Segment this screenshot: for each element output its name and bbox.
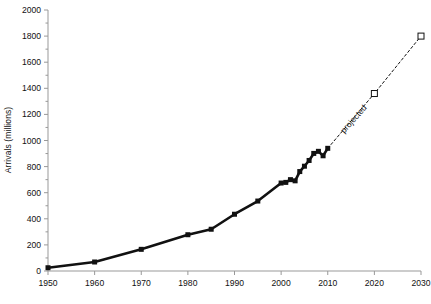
y-tick-label: 1200 [22,109,41,119]
x-tick-label: 1970 [132,278,151,288]
data-point-marker [297,169,302,174]
data-point-marker [288,177,293,182]
y-tick-label: 200 [27,240,42,250]
x-tick-label: 1960 [85,278,104,288]
projected-annotation-label: projected [338,103,369,136]
x-axis-ticks: 195019601970198019902000201020202030 [38,271,430,288]
y-tick-label: 1600 [22,57,41,67]
y-tick-label: 0 [36,266,41,276]
y-tick-label: 1000 [22,136,41,146]
x-tick-label: 1990 [225,278,244,288]
x-tick-label: 2010 [318,278,337,288]
data-point-marker [316,149,321,154]
data-point-marker [293,178,298,183]
y-tick-label: 2000 [22,5,41,15]
data-point-marker [139,247,144,252]
data-point-marker [371,91,377,97]
y-axis-ticks: 0200400600800100012001400160018002000 [22,5,48,276]
x-tick-label: 2030 [411,278,430,288]
data-point-marker [283,180,288,185]
data-point-marker [185,232,190,237]
data-markers-group [46,33,425,270]
line-chart-plot: 0200400600800100012001400160018002000 19… [0,0,431,304]
chart-annotations: projected [338,103,369,136]
chart-container: Arrivals (millions) 02004006008001000120… [0,0,431,304]
data-point-marker [279,181,284,186]
x-tick-label: 1980 [178,278,197,288]
data-point-marker [92,259,97,264]
x-tick-label: 1950 [38,278,57,288]
data-point-marker [232,212,237,217]
y-tick-label: 600 [27,188,42,198]
data-point-marker [321,153,326,158]
data-point-marker [325,146,330,151]
data-point-marker [418,33,424,39]
y-tick-label: 1800 [22,31,41,41]
data-point-marker [46,265,51,270]
data-point-marker [255,199,260,204]
data-point-marker [307,158,312,163]
y-tick-label: 800 [27,162,42,172]
x-tick-label: 2000 [272,278,291,288]
data-series-group [48,36,421,268]
y-tick-label: 1400 [22,83,41,93]
data-point-marker [209,227,214,232]
y-tick-label: 400 [27,214,42,224]
data-point-marker [302,164,307,169]
x-tick-label: 2020 [365,278,384,288]
series-line-actual [48,148,328,267]
data-point-marker [311,151,316,156]
